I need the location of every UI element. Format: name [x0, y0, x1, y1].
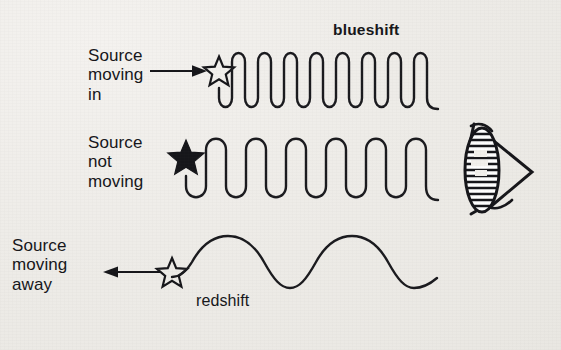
arrow-left-icon [103, 266, 160, 277]
diagram-canvas [0, 0, 561, 350]
doppler-shift-figure: Source moving in Source not moving Sourc… [0, 0, 561, 350]
label-source-moving-away: Source moving away [12, 236, 67, 294]
wave-rest [186, 139, 438, 200]
wave-redshift [172, 236, 437, 288]
label-blueshift: blueshift [333, 21, 399, 39]
rest-row [168, 139, 438, 200]
redshift-row [103, 236, 437, 288]
wave-blueshift [219, 53, 438, 109]
label-source-moving-in: Source moving in [88, 46, 143, 104]
star-hollow-icon [204, 57, 234, 86]
arrow-right-icon [150, 65, 207, 77]
blueshift-row [150, 53, 438, 109]
eye-observer-icon [463, 124, 532, 214]
star-filled-icon [168, 140, 204, 174]
label-source-not-moving: Source not moving [88, 133, 143, 191]
label-redshift: redshift [196, 292, 249, 310]
lens-hatching [463, 134, 501, 206]
